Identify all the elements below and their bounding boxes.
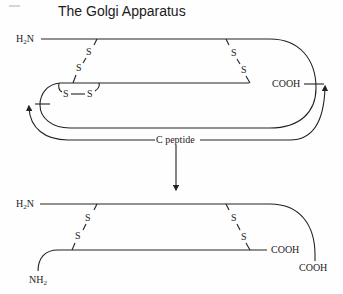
sulfur-label: S: [85, 212, 91, 223]
diagram-canvas: The Golgi Apparatus H2N COOH S S S S S S…: [0, 0, 343, 294]
insulin: H2N COOH COOH NH2 S S S S: [16, 198, 327, 287]
insulin-b-n-terminus: H2N: [16, 198, 34, 211]
proinsulin-cooh: COOH: [272, 78, 300, 89]
insulin-a-cooh: COOH: [271, 244, 299, 255]
c-peptide-label: C peptide: [156, 134, 195, 145]
golgi-diagram: The Golgi Apparatus H2N COOH S S S S S S…: [0, 0, 343, 294]
sulfur-label: S: [241, 231, 247, 242]
a-chain: [38, 250, 267, 271]
insulin-b-cooh: COOH: [299, 262, 327, 273]
sulfur-label: S: [76, 62, 82, 73]
sulfur-label: S: [75, 230, 81, 241]
page-title: The Golgi Apparatus: [58, 3, 186, 19]
insulin-a-n-terminus: NH2: [29, 274, 47, 287]
sulfur-label: S: [241, 64, 247, 75]
sulfur-label: S: [86, 46, 92, 57]
sulfur-label: S: [231, 212, 237, 223]
c-peptide-arrow-right: [200, 88, 325, 140]
proinsulin: H2N COOH S S S S S S C peptide: [16, 33, 325, 145]
proinsulin-n-terminus: H2N: [16, 33, 34, 46]
c-peptide-arrow-left: [29, 108, 155, 140]
sulfur-label: S: [63, 88, 69, 99]
sulfur-label: S: [87, 88, 93, 99]
sulfur-label: S: [231, 47, 237, 58]
